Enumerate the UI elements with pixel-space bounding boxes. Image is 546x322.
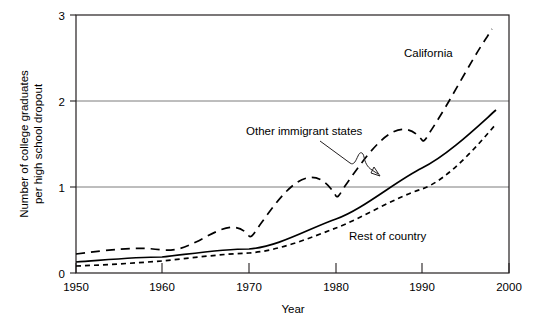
xtick-label-1980: 1980: [323, 281, 349, 293]
series-label-other-immigrant-states: Other immigrant states: [246, 125, 363, 137]
y-axis-title-line1: Number of college graduates: [18, 70, 30, 218]
ytick-label-3: 3: [59, 10, 65, 22]
x-axis-title: Year: [281, 303, 304, 315]
xtick-label-1990: 1990: [409, 281, 435, 293]
xtick-label-1960: 1960: [149, 281, 175, 293]
series-label-california: California: [404, 47, 453, 59]
y-axis-ticks: [70, 15, 76, 273]
xtick-label-2000: 2000: [496, 281, 522, 293]
ytick-label-2: 2: [59, 96, 65, 108]
xtick-label-1970: 1970: [236, 281, 262, 293]
ytick-label-1: 1: [59, 182, 65, 194]
xtick-label-1950: 1950: [63, 281, 89, 293]
chart-figure: 3 2 1 0 1950 1960 1970 1980 1990 2000 Ye…: [0, 0, 546, 322]
y-axis-title-line2: per high school dropout: [32, 83, 44, 204]
series-label-rest-of-country: Rest of country: [349, 230, 427, 242]
line-chart: 3 2 1 0 1950 1960 1970 1980 1990 2000 Ye…: [0, 0, 546, 322]
ytick-label-0: 0: [59, 268, 65, 280]
